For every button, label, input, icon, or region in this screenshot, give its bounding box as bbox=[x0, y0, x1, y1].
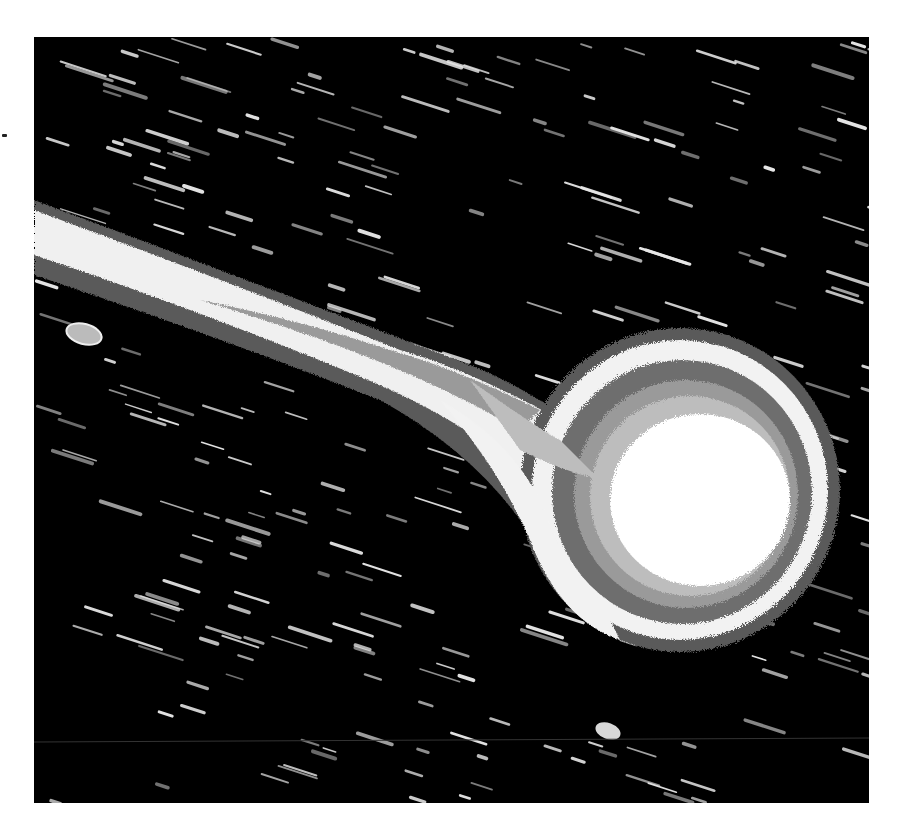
caption-area bbox=[34, 806, 869, 816]
comet-photo bbox=[34, 37, 869, 803]
margin-mark bbox=[2, 134, 7, 137]
comet-nucleus bbox=[610, 414, 790, 586]
comet-illustration bbox=[34, 37, 869, 803]
